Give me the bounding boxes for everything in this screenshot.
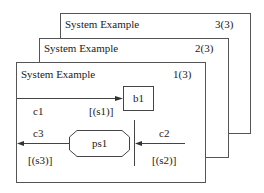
channel-c1-signals: [(s1)] [89, 105, 113, 118]
block-b1-label: b1 [133, 92, 144, 104]
frame-2-page: 2(3) [195, 42, 214, 55]
process-ps1-label: ps1 [92, 137, 107, 149]
frame-page-1: System Example 1(3) c1 [(s1)] b1 ps1 c3 … [17, 63, 206, 183]
channel-c2-label: c2 [159, 127, 169, 139]
channel-c2-signals: [(s2)] [152, 154, 176, 167]
channel-c1-label: c1 [33, 105, 43, 117]
channel-c3-label: c3 [33, 127, 44, 139]
channel-c3-signals: [(s3)] [28, 154, 52, 167]
frame-3-title: System Example [65, 18, 139, 30]
frame-3-page: 3(3) [215, 18, 234, 31]
frame-1-page: 1(3) [173, 68, 192, 81]
frame-1-title: System Example [21, 68, 95, 80]
system-diagram: System Example 3(3) System Example 2(3) … [0, 0, 264, 193]
frame-2-title: System Example [44, 42, 118, 54]
